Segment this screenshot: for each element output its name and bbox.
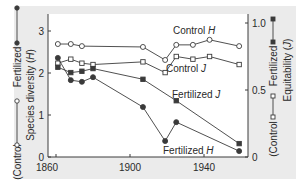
data-point-marker — [140, 105, 145, 110]
data-point-marker — [207, 54, 211, 58]
data-point-marker — [56, 65, 60, 69]
data-point-marker — [141, 77, 145, 81]
x-tick-label: 1940 — [193, 162, 216, 173]
filled-circle-icon — [15, 6, 19, 10]
left-y-tick-label: 3 — [38, 26, 44, 37]
data-point-marker — [174, 54, 178, 58]
x-tick-label: 1860 — [36, 162, 59, 173]
data-point-marker — [68, 42, 73, 47]
right-y-tick-label: 0.5 — [252, 85, 266, 96]
series-label: Control H — [173, 25, 216, 36]
data-point-marker — [191, 57, 195, 61]
series-label: Fertilized J — [172, 89, 221, 100]
data-point-marker — [79, 44, 84, 49]
data-point-marker — [68, 78, 73, 83]
left-legend-control-label: (Control — [12, 144, 23, 180]
data-point-marker — [79, 79, 84, 84]
data-point-marker — [237, 141, 241, 145]
open-circle-icon — [15, 99, 19, 103]
data-point-marker — [237, 62, 241, 66]
right-legend-fertilized-label: Fertilized — [268, 46, 279, 87]
data-point-marker — [174, 42, 179, 47]
series-label: Control J — [166, 63, 207, 74]
right-axis-legend: Equitability (J)(ControlFertilized — [268, 17, 293, 157]
data-point-marker — [163, 57, 168, 62]
data-point-marker — [55, 42, 60, 47]
left-y-tick-label: 2 — [38, 68, 44, 79]
data-point-marker — [80, 69, 84, 73]
open-square-icon — [271, 115, 275, 119]
chart-figure: 186019001940012300.51.0 Control HControl… — [0, 0, 306, 190]
left-axis-legend: Species diversity (H)(ControlFertilized — [12, 6, 36, 180]
right-legend-control-label: (Control — [268, 121, 279, 157]
open-square-icon — [271, 94, 275, 98]
filled-square-icon — [271, 17, 275, 21]
data-point-marker — [91, 75, 96, 80]
data-point-marker — [140, 44, 145, 49]
data-point-marker — [174, 120, 179, 125]
data-point-marker — [80, 61, 84, 65]
filled-square-icon — [271, 40, 275, 44]
right-axis-title: Equitability (J) — [282, 39, 293, 102]
data-point-marker — [69, 57, 73, 61]
data-point-marker — [207, 37, 212, 42]
filled-circle-icon — [15, 41, 19, 45]
right-y-tick-label: 1.0 — [252, 18, 266, 29]
data-point-marker — [141, 60, 145, 64]
data-point-marker — [91, 66, 95, 70]
data-point-marker — [55, 55, 60, 60]
plot-area — [48, 14, 248, 157]
right-y-tick-label: 0 — [252, 152, 258, 163]
data-point-marker — [69, 70, 73, 74]
left-legend-fertilized-label: Fertilized — [12, 47, 23, 88]
data-point-marker — [237, 44, 242, 49]
left-y-tick-label: 0 — [38, 152, 44, 163]
data-point-marker — [237, 149, 242, 154]
x-tick-label: 1900 — [119, 162, 142, 173]
line-chart: 186019001940012300.51.0 Control HControl… — [0, 0, 306, 190]
left-y-tick-label: 1 — [38, 110, 44, 121]
open-circle-icon — [15, 143, 19, 147]
data-point-marker — [163, 139, 168, 144]
series-label: Fertilized H — [163, 145, 214, 156]
data-point-marker — [190, 42, 195, 47]
left-axis-title: Species diversity (H) — [25, 49, 36, 141]
